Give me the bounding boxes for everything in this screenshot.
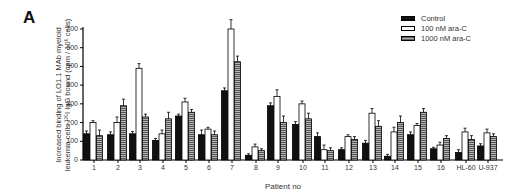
y-tick-label: 700 <box>60 25 78 32</box>
bar-0 <box>222 91 228 160</box>
y-tick-label: 100 <box>60 137 78 144</box>
bar-0 <box>108 135 114 160</box>
bar-0 <box>456 153 462 160</box>
legend-text: 1000 nM ara-C <box>421 34 471 44</box>
bar-0 <box>363 143 369 160</box>
bar-1 <box>391 132 397 160</box>
bar-0 <box>315 137 321 160</box>
bar-2 <box>121 106 127 160</box>
bar-2 <box>189 112 195 160</box>
bar-2 <box>376 126 382 160</box>
bar-0 <box>153 140 159 160</box>
bar-1 <box>136 68 142 160</box>
legend-swatch-control <box>401 16 415 21</box>
bar-2 <box>166 119 172 160</box>
bar-2 <box>352 139 358 160</box>
bar-2 <box>97 136 103 160</box>
bar-0 <box>176 116 182 160</box>
legend-text: Control <box>421 14 445 24</box>
bar-2 <box>281 123 287 160</box>
legend-text: 100 nM ara-C <box>421 24 467 34</box>
y-tick-label: 500 <box>60 62 78 69</box>
bar-0 <box>84 134 90 160</box>
bar-1 <box>228 29 234 160</box>
bar-0 <box>339 150 345 160</box>
x-axis-label: Patient no <box>265 182 301 191</box>
bar-1 <box>182 102 188 160</box>
bar-0 <box>293 124 299 160</box>
bar-0 <box>431 149 437 160</box>
bar-2 <box>421 112 427 160</box>
bar-2 <box>444 138 450 160</box>
bar-2 <box>306 119 312 160</box>
bar-0 <box>246 155 252 160</box>
bar-1 <box>462 132 468 160</box>
y-tick-label: 400 <box>60 81 78 88</box>
bar-1 <box>369 113 375 160</box>
bar-1 <box>114 123 120 160</box>
legend-swatch-100nm <box>401 26 415 31</box>
bar-0 <box>130 134 136 160</box>
bar-0 <box>408 135 414 160</box>
bar-1 <box>321 150 327 160</box>
bar-2 <box>491 137 497 160</box>
bar-1 <box>345 137 351 160</box>
bar-0 <box>478 146 484 160</box>
bar-1 <box>437 145 443 160</box>
bar-1 <box>484 133 490 160</box>
y-tick-label: 200 <box>60 119 78 126</box>
bar-2 <box>469 139 475 160</box>
bar-0 <box>268 106 274 160</box>
bar-2 <box>398 123 404 160</box>
bar-1 <box>274 96 280 160</box>
bar-1 <box>252 147 258 160</box>
y-tick-label: 600 <box>60 44 78 51</box>
bar-2 <box>212 135 218 160</box>
bar-0 <box>385 156 391 160</box>
bar-1 <box>90 123 96 160</box>
y-tick-label: 0 <box>60 156 78 163</box>
x-tick-label: U-937 <box>473 164 503 171</box>
bar-0 <box>199 135 205 160</box>
bar-1 <box>299 104 305 160</box>
bar-1 <box>414 125 420 160</box>
bar-2 <box>259 151 265 160</box>
y-tick-label: 300 <box>60 100 78 107</box>
bar-2 <box>143 117 149 160</box>
legend-swatch-1000nm <box>401 36 415 41</box>
bar-2 <box>235 62 241 160</box>
bar-1 <box>159 134 165 160</box>
bar-1 <box>205 129 211 160</box>
bar-2 <box>328 151 334 160</box>
